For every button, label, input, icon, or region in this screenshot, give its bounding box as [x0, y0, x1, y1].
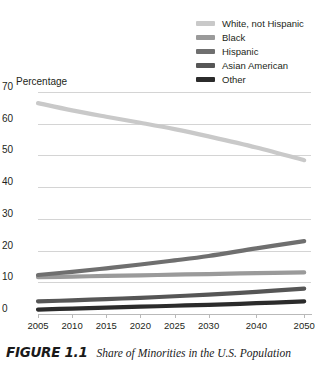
legend-swatch-icon: [196, 63, 215, 68]
x-axis-tick-mark: [175, 314, 176, 318]
legend-item: White, not Hispanic: [196, 18, 304, 29]
x-axis-tick-label: 2015: [96, 320, 117, 331]
series-line: [38, 301, 304, 309]
figure-container: White, not HispanicBlackHispanicAsian Am…: [0, 0, 322, 367]
legend-swatch-icon: [196, 77, 215, 82]
legend-item: Black: [196, 32, 304, 43]
x-axis-tick-mark: [72, 314, 73, 318]
y-axis-tick-label: 70: [2, 81, 34, 92]
legend-item: Asian American: [196, 60, 304, 71]
series-line: [38, 103, 304, 160]
x-axis-tick-mark: [256, 314, 257, 318]
legend-label: Hispanic: [222, 46, 258, 57]
x-axis-tick-label: 2010: [62, 320, 83, 331]
x-axis-labels: 20052010201520202025203020402050: [0, 320, 322, 336]
legend-label: Other: [222, 74, 246, 85]
legend-label: Asian American: [222, 60, 288, 71]
legend-swatch-icon: [196, 35, 215, 40]
series-line: [38, 241, 304, 275]
x-axis-tick-label: 2025: [164, 320, 185, 331]
figure-number: FIGURE 1.1: [6, 344, 88, 360]
legend-label: Black: [222, 32, 245, 43]
x-axis-tick-label: 2030: [198, 320, 219, 331]
series-lines: [0, 92, 322, 332]
x-axis-tick-mark: [304, 314, 305, 318]
x-axis-tick-mark: [209, 314, 210, 318]
figure-title: Share of Minorities in the U.S. Populati…: [97, 347, 291, 359]
x-axis-tick-mark: [38, 314, 39, 318]
x-axis-tick-label: 2005: [27, 320, 48, 331]
legend-item: Other: [196, 74, 304, 85]
x-axis-tick-label: 2020: [130, 320, 151, 331]
plot-area: 010203040506070: [0, 92, 322, 332]
x-axis-tick-label: 2040: [246, 320, 267, 331]
x-axis-tick-label: 2050: [294, 320, 315, 331]
chart-legend: White, not HispanicBlackHispanicAsian Am…: [196, 18, 304, 85]
legend-label: White, not Hispanic: [222, 18, 304, 29]
legend-swatch-icon: [196, 21, 215, 26]
x-axis-tick-mark: [106, 314, 107, 318]
series-line: [38, 289, 304, 302]
legend-item: Hispanic: [196, 46, 304, 57]
figure-caption: FIGURE 1.1 Share of Minorities in the U.…: [6, 344, 322, 360]
legend-swatch-icon: [196, 49, 215, 54]
x-axis-tick-mark: [140, 314, 141, 318]
